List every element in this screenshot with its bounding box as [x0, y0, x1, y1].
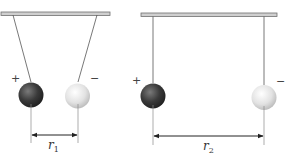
charged-spheres-diagram: + − r1 + − r2: [0, 0, 286, 159]
negative-sign: −: [90, 72, 99, 85]
positive-sphere: [19, 83, 44, 108]
panel-far-separation: + − r2: [132, 13, 285, 155]
support-bar: [141, 13, 277, 17]
negative-sign: −: [276, 75, 285, 88]
positive-sign: +: [132, 74, 141, 87]
positive-sphere: [141, 84, 166, 109]
positive-sign: +: [11, 72, 20, 85]
support-bar: [1, 12, 110, 16]
distance-label-r2: r2: [203, 139, 214, 155]
panel-close-separation: + − r1: [1, 12, 110, 154]
distance-label-r1: r1: [48, 138, 59, 154]
negative-sphere: [65, 84, 90, 109]
